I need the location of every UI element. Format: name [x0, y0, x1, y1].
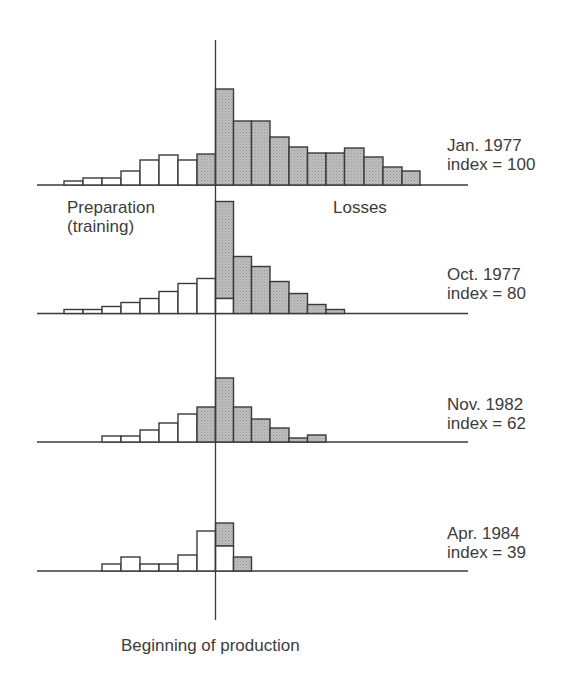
preparation-bar [102, 307, 121, 314]
panel-index: index = 100 [447, 155, 535, 174]
panel-date: Jan. 1977 [447, 136, 535, 155]
losses-bar [270, 428, 289, 442]
losses-bar [308, 305, 327, 314]
losses-bar [234, 557, 252, 571]
preparation-bar [121, 303, 140, 314]
panel-3-label: Nov. 1982 index = 62 [447, 395, 526, 433]
losses-bar [308, 435, 327, 442]
losses-bar [197, 154, 216, 185]
losses-bar [289, 147, 308, 185]
preparation-bar [159, 564, 178, 571]
beginning-of-production-label: Beginning of production [121, 636, 300, 655]
preparation-bar [140, 430, 159, 442]
histogram-figure [0, 0, 588, 690]
losses-bar [252, 267, 271, 314]
losses-bar [252, 121, 271, 185]
preparation-bar [216, 546, 234, 571]
preparation-bar [178, 284, 197, 314]
panel-4-label: Apr. 1984 index = 39 [447, 524, 526, 562]
preparation-bar [159, 423, 178, 442]
losses-bar [364, 157, 383, 185]
preparation-bar [140, 299, 159, 314]
losses-bar [234, 407, 252, 442]
preparation-label: Preparation (training) [67, 198, 155, 236]
losses-bar [216, 89, 234, 185]
panel-index: index = 39 [447, 543, 526, 562]
panel-index: index = 80 [447, 284, 526, 303]
losses-bar [234, 257, 252, 314]
losses-bar [308, 153, 327, 185]
losses-bar [270, 137, 289, 185]
preparation-bar [83, 310, 102, 314]
losses-label: Losses [333, 198, 387, 217]
preparation-bar [102, 178, 121, 185]
preparation-bar [121, 171, 140, 185]
preparation-bar [121, 436, 140, 442]
losses-bar [289, 294, 308, 314]
panel-index: index = 62 [447, 414, 526, 433]
preparation-bar [140, 564, 159, 571]
preparation-bar [102, 564, 121, 571]
losses-bar [402, 171, 420, 185]
preparation-bar [178, 414, 197, 442]
losses-bar [216, 523, 234, 546]
panel-1-label: Jan. 1977 index = 100 [447, 136, 535, 174]
preparation-bar [121, 557, 140, 571]
losses-bar [383, 167, 402, 185]
losses-bar [270, 282, 289, 314]
losses-bar [289, 438, 308, 442]
preparation-bar [140, 160, 159, 185]
histogram-panels [37, 89, 468, 571]
preparation-bar [159, 155, 178, 185]
preparation-bar [178, 160, 197, 185]
preparation-bar [64, 181, 83, 185]
panel-2-label: Oct. 1977 index = 80 [447, 265, 526, 303]
losses-bar [234, 121, 252, 185]
preparation-label-line2: (training) [67, 217, 155, 236]
losses-bar [252, 419, 271, 442]
panel-date: Apr. 1984 [447, 524, 526, 543]
losses-bar [326, 153, 345, 185]
preparation-bar [102, 436, 121, 442]
preparation-bar [64, 310, 83, 314]
preparation-bar [197, 279, 216, 314]
preparation-bar [197, 531, 216, 571]
preparation-bar [83, 178, 102, 185]
losses-bar [345, 148, 365, 185]
preparation-bar [159, 292, 178, 314]
panel-date: Nov. 1982 [447, 395, 526, 414]
losses-bar [197, 407, 216, 442]
preparation-bar [178, 555, 197, 571]
preparation-bar [216, 299, 234, 314]
losses-bar [216, 378, 234, 442]
panel-date: Oct. 1977 [447, 265, 526, 284]
losses-bar [326, 310, 345, 314]
preparation-label-line1: Preparation [67, 198, 155, 217]
losses-bar [216, 202, 234, 299]
